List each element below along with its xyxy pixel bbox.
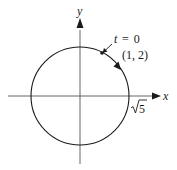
x-axis-label: x (162, 89, 169, 103)
t-variable-label: t (114, 32, 118, 46)
t-equals-label: = 0 (122, 32, 141, 46)
radius-value-label: 5 (139, 102, 145, 116)
parametric-circle-diagram: y x t = 0 (1, 2) 5 (0, 0, 177, 170)
point-coordinates-label: (1, 2) (122, 48, 148, 62)
y-axis-arrow-icon (77, 18, 84, 28)
direction-arrow-icon (114, 62, 122, 71)
y-axis (77, 18, 84, 164)
radius-label: 5 (131, 100, 147, 116)
x-axis-arrow-icon (152, 93, 161, 100)
y-axis-label: y (76, 4, 83, 18)
pointer-arrow-icon (103, 44, 113, 53)
